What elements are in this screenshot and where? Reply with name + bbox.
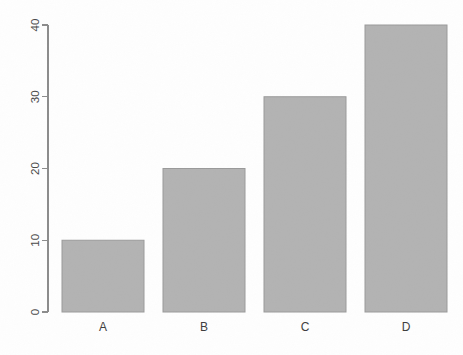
- x-tick-label-c: C: [301, 320, 310, 334]
- x-tick-label-d: D: [402, 320, 411, 334]
- x-tick-label-a: A: [99, 320, 107, 334]
- bar-b[interactable]: [163, 169, 245, 313]
- bar-chart-plot: 010203040 ABCD: [0, 0, 463, 355]
- y-tick-label: 40: [29, 18, 41, 31]
- y-tick-label: 0: [29, 309, 41, 316]
- y-tick-label: 30: [29, 90, 41, 103]
- bar-c[interactable]: [264, 97, 346, 312]
- bar-a[interactable]: [62, 240, 144, 312]
- y-tick-label: 10: [29, 234, 41, 247]
- bar-d[interactable]: [365, 25, 447, 312]
- y-tick-label: 20: [29, 162, 41, 175]
- x-tick-label-b: B: [200, 320, 208, 334]
- chart-canvas: 010203040 ABCD: [0, 0, 463, 355]
